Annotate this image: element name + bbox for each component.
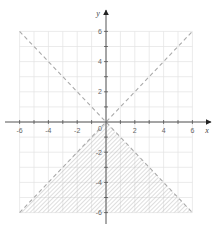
x-tick-label: -4 <box>45 127 51 134</box>
y-tick-label: 6 <box>98 28 102 35</box>
chart: x y 0 -6-4-2246642-2-4-6 <box>0 0 215 228</box>
x-tick-label: 2 <box>133 127 137 134</box>
y-axis-label: y <box>95 9 100 18</box>
x-tick-label: -6 <box>16 127 22 134</box>
y-tick-label: 2 <box>98 88 102 95</box>
x-tick-label: 6 <box>190 127 194 134</box>
x-axis-label: x <box>204 126 209 135</box>
origin-label: 0 <box>98 125 102 132</box>
y-tick-label: -6 <box>96 209 102 216</box>
x-tick-label: 4 <box>162 127 166 134</box>
y-tick-label: 4 <box>98 58 102 65</box>
x-tick-label: -2 <box>74 127 80 134</box>
y-tick-label: -2 <box>96 149 102 156</box>
y-tick-label: -4 <box>96 179 102 186</box>
